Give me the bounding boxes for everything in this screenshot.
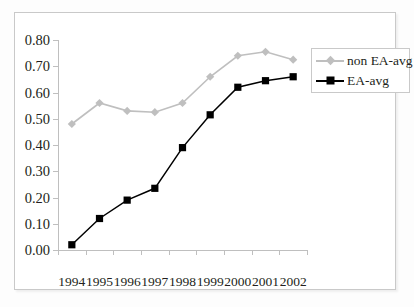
x-axis-tick-label: 1998 bbox=[169, 275, 196, 289]
data-point-square-icon bbox=[151, 185, 158, 192]
data-point-square-icon bbox=[234, 84, 241, 91]
data-point-diamond-icon bbox=[123, 107, 131, 115]
x-axis-tick-label: 1995 bbox=[86, 275, 113, 289]
chart-legend: non EA-avg EA-avg bbox=[311, 48, 410, 93]
y-axis-tick-label: 0.40 bbox=[25, 138, 50, 153]
series-non-ea-avg bbox=[68, 48, 298, 128]
y-axis-tick-label: 0.50 bbox=[25, 112, 50, 127]
data-point-diamond-icon bbox=[289, 56, 297, 64]
chart-frame: 0.800.700.600.500.400.300.200.100.00 199… bbox=[14, 12, 396, 290]
series-svg bbox=[58, 40, 308, 251]
legend-item-non-ea-avg: non EA-avg bbox=[312, 50, 409, 71]
data-point-square-icon bbox=[290, 73, 297, 80]
y-axis-tick-label: 0.80 bbox=[25, 33, 50, 48]
y-axis-tick-label: 0.20 bbox=[25, 190, 50, 205]
data-point-square-icon bbox=[124, 197, 131, 204]
data-point-diamond-icon bbox=[151, 108, 159, 116]
x-axis-tick-label: 1996 bbox=[114, 275, 141, 289]
data-point-square-icon bbox=[96, 215, 103, 222]
plot-area: 0.800.700.600.500.400.300.200.100.00 bbox=[58, 40, 307, 250]
x-axis-tick-label: 1997 bbox=[141, 275, 168, 289]
x-axis-tick-label: 1999 bbox=[197, 275, 224, 289]
y-axis-tick-label: 0.70 bbox=[25, 59, 50, 74]
x-axis-labels: 199419951996199719981999200020012002 bbox=[58, 275, 307, 293]
chart-page: 0.800.700.600.500.400.300.200.100.00 199… bbox=[0, 0, 414, 307]
y-axis-tick-label: 0.00 bbox=[25, 243, 50, 258]
data-point-square-icon bbox=[68, 241, 75, 248]
x-axis-tick-label: 1994 bbox=[58, 275, 85, 289]
y-axis-tick-label: 0.30 bbox=[25, 164, 50, 179]
legend-marker-square-icon bbox=[315, 73, 345, 89]
data-point-square-icon bbox=[262, 77, 269, 84]
legend-label-ea-avg: EA-avg bbox=[347, 74, 389, 88]
data-point-square-icon bbox=[207, 111, 214, 118]
legend-label-non-ea-avg: non EA-avg bbox=[347, 54, 413, 68]
legend-item-ea-avg: EA-avg bbox=[312, 70, 409, 91]
y-axis-tick-label: 0.60 bbox=[25, 85, 50, 100]
x-axis-tick-label: 2002 bbox=[280, 275, 307, 289]
series-line bbox=[72, 52, 293, 124]
data-point-diamond-icon bbox=[261, 48, 269, 56]
x-axis-tick-label: 2001 bbox=[252, 275, 279, 289]
legend-marker-diamond-icon bbox=[315, 53, 345, 69]
data-point-square-icon bbox=[179, 144, 186, 151]
y-axis-tick-label: 0.10 bbox=[25, 217, 50, 232]
x-axis-tick-label: 2000 bbox=[224, 275, 251, 289]
